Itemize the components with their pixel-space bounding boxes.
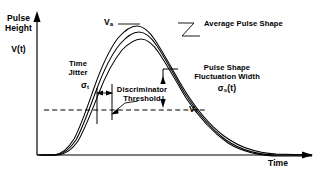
fluctuation-width-label: Pulse Shape Fluctuation Width xyxy=(180,64,274,81)
time-jitter-label: Time Jitter xyxy=(57,60,99,77)
fluctuation-argument: (t) xyxy=(227,83,236,93)
y-axis-title-line2: Height xyxy=(2,24,35,34)
discriminator-threshold-symbol: VT xyxy=(189,105,199,115)
lower-pulse-curve xyxy=(41,39,312,156)
y-axis-variable: V(t) xyxy=(2,45,35,55)
average-pulse-shape-label: Average Pulse Shape xyxy=(204,20,283,29)
threshold-symbol-subscript: T xyxy=(195,108,199,114)
fluctuation-width-line2: Fluctuation Width xyxy=(180,73,274,82)
fluctuation-arrow-upper xyxy=(160,76,165,84)
discriminator-threshold-label: Discriminator Threshold xyxy=(109,86,175,103)
x-axis-title: Time xyxy=(268,159,288,169)
peak-value-subscript: a xyxy=(110,21,113,27)
time-jitter-line2: Jitter xyxy=(57,69,99,78)
average-pulse-shape-leader xyxy=(178,23,200,36)
pulse-shape-figure: Pulse Height V(t) Va Average Pulse Shape… xyxy=(0,0,321,173)
time-jitter-symbol: σt xyxy=(81,81,89,91)
peak-value-label: Va xyxy=(104,18,113,28)
fluctuation-width-symbol: σs(t) xyxy=(180,84,274,94)
y-axis-title: Pulse Height xyxy=(2,14,35,33)
discriminator-threshold-line2: Threshold xyxy=(109,95,175,104)
time-jitter-subscript: t xyxy=(87,84,89,90)
